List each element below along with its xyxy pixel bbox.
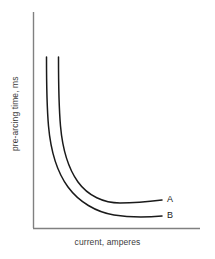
- chart-figure: current, amperes pre-arcing time, ms A B: [0, 0, 215, 259]
- curve-a-path: [59, 57, 163, 203]
- curve-label-a: A: [167, 194, 173, 204]
- curve-label-b: B: [167, 210, 173, 220]
- plot-area: [0, 0, 215, 259]
- y-axis-label-container: pre-arcing time, ms: [0, 0, 30, 228]
- y-axis-label: pre-arcing time, ms: [10, 77, 19, 152]
- curve-b-path: [47, 57, 163, 217]
- x-axis-label: current, amperes: [0, 238, 215, 247]
